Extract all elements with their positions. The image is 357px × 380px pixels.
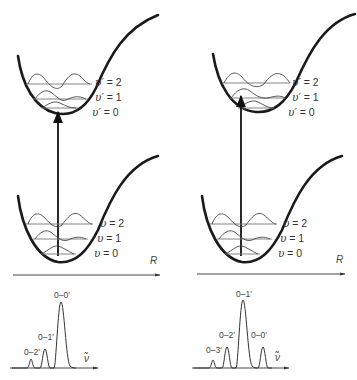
level-label: υ = 2 <box>100 217 124 229</box>
peak-label: 0–3′ <box>206 345 222 355</box>
panel-left: υ′ = 2 υ′ = 1 υ′ = 0 υ = 2 υ = 1 υ = 0 R <box>10 15 160 368</box>
level-label: υ = 2 <box>283 217 307 229</box>
level-label: υ′ = 2 <box>95 76 122 88</box>
level-label: υ′ = 0 <box>92 106 119 118</box>
peak-label: 0–2′ <box>24 347 40 357</box>
wavenumber-axis-label-right: ν̃ <box>275 351 280 363</box>
panel-right: υ′ = 2 υ′ = 1 υ′ = 0 υ = 2 υ = 1 υ = 0 R <box>192 14 355 368</box>
peak-label: 0–1′ <box>236 289 252 299</box>
level-label: υ = 1 <box>97 232 121 244</box>
lower-potential-curve-right <box>202 156 342 262</box>
level-label: υ′ = 1 <box>292 91 319 103</box>
lower-level-labels-left: υ = 2 υ = 1 υ = 0 <box>94 217 124 259</box>
wavenumber-axis-label-left: ν̃ <box>84 352 89 364</box>
r-axis-label-right: R <box>336 254 343 265</box>
level-label: υ′ = 1 <box>95 91 122 103</box>
upper-level-labels-left: υ′ = 2 υ′ = 1 υ′ = 0 <box>92 76 122 118</box>
level-label: υ = 0 <box>278 247 302 259</box>
r-axis-label-left: R <box>150 255 157 266</box>
peak-label: 0–0′ <box>54 290 70 300</box>
level-label: υ = 1 <box>280 232 304 244</box>
lower-potential-curve-left <box>18 156 158 262</box>
level-label: υ′ = 0 <box>288 106 315 118</box>
spectrum-left: 0–2′ 0–1′ 0–0′ ν̃ <box>10 290 98 368</box>
upper-potential-curve-right <box>213 14 355 112</box>
spectrum-right: 0–3′ 0–2′ 0–1′ 0–0′ ν̃ <box>192 289 289 368</box>
peak-label: 0–1′ <box>38 332 54 342</box>
level-label: υ′ = 2 <box>292 76 319 88</box>
upper-potential-curve-left <box>18 15 158 114</box>
peak-label: 0–2′ <box>219 330 235 340</box>
upper-level-labels-right: υ′ = 2 υ′ = 1 υ′ = 0 <box>288 76 319 118</box>
lower-level-labels-right: υ = 2 υ = 1 υ = 0 <box>278 217 307 259</box>
peak-label: 0–0′ <box>251 330 267 340</box>
franck-condon-diagram: υ′ = 2 υ′ = 1 υ′ = 0 υ = 2 υ = 1 υ = 0 R <box>0 0 357 380</box>
level-label: υ = 0 <box>94 247 118 259</box>
